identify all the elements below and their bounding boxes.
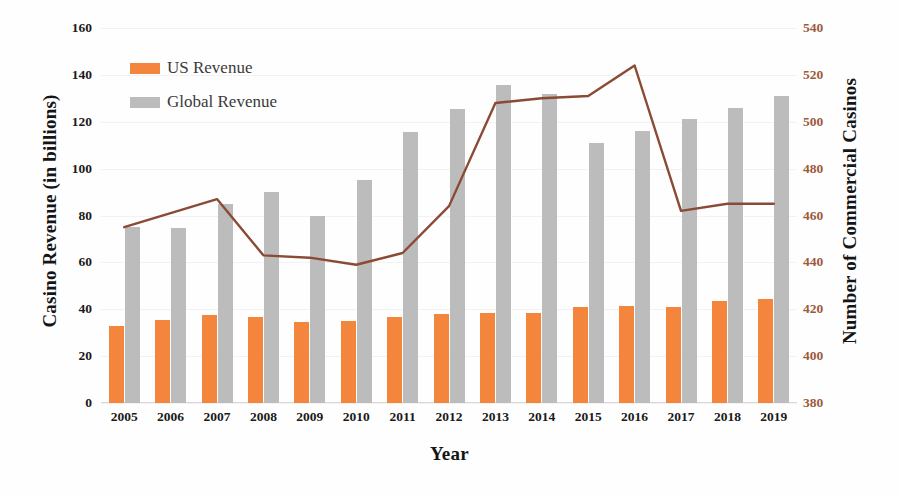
y-axis-left-tick-label: 100 <box>52 162 92 176</box>
bar-us-revenue <box>526 313 541 403</box>
legend-label: US Revenue <box>167 58 252 78</box>
bar-us-revenue <box>155 320 170 403</box>
x-axis-tick-label: 2016 <box>610 409 660 425</box>
bar-global-revenue <box>171 228 186 403</box>
x-axis-tick-label: 2006 <box>146 409 196 425</box>
bar-us-revenue <box>248 317 263 403</box>
bar-global-revenue <box>589 143 604 403</box>
bar-group <box>666 28 697 403</box>
bar-us-revenue <box>202 315 217 403</box>
bar-us-revenue <box>712 301 727 403</box>
bar-us-revenue <box>341 321 356 403</box>
bar-us-revenue <box>109 326 124 403</box>
bar-group <box>619 28 650 403</box>
bar-group <box>387 28 418 403</box>
bar-us-revenue <box>294 322 309 403</box>
x-axis-tick-label: 2018 <box>702 409 752 425</box>
y-axis-right-tick-label: 540 <box>803 21 847 35</box>
x-axis-tick-label: 2009 <box>285 409 335 425</box>
bar-global-revenue <box>450 109 465 403</box>
bar-global-revenue <box>542 94 557 403</box>
bar-global-revenue <box>125 227 140 403</box>
gridline <box>101 403 797 404</box>
y-axis-left-tick-label: 80 <box>52 209 92 223</box>
bar-group <box>434 28 465 403</box>
casino-revenue-chart: Casino Revenue (in billions) Number of C… <box>0 0 899 495</box>
bar-us-revenue <box>387 317 402 403</box>
x-axis-tick-label: 2019 <box>749 409 799 425</box>
x-axis-tick-label: 2013 <box>470 409 520 425</box>
bar-us-revenue <box>573 307 588 403</box>
y-axis-right-tick-label: 440 <box>803 255 847 269</box>
bar-group <box>480 28 511 403</box>
x-axis-tick-label: 2011 <box>378 409 428 425</box>
legend-label: Global Revenue <box>167 92 277 112</box>
bar-group <box>758 28 789 403</box>
x-axis-tick-label: 2005 <box>99 409 149 425</box>
y-axis-left-tick-label: 160 <box>52 21 92 35</box>
legend-swatch-icon <box>130 63 160 74</box>
legend-swatch-icon <box>130 97 160 108</box>
x-axis-title: Year <box>0 443 899 465</box>
x-axis-tick-label: 2015 <box>563 409 613 425</box>
bar-global-revenue <box>357 180 372 403</box>
x-axis-tick-label: 2010 <box>331 409 381 425</box>
y-axis-right-tick-label: 460 <box>803 209 847 223</box>
bar-global-revenue <box>682 119 697 403</box>
bar-group <box>341 28 372 403</box>
y-axis-left-tick-label: 120 <box>52 115 92 129</box>
y-axis-right-tick-label: 480 <box>803 162 847 176</box>
bar-global-revenue <box>218 204 233 403</box>
x-axis-tick-label: 2014 <box>517 409 567 425</box>
bar-group <box>526 28 557 403</box>
bar-group <box>573 28 604 403</box>
y-axis-right-tick-label: 500 <box>803 115 847 129</box>
bar-group <box>294 28 325 403</box>
bar-global-revenue <box>728 108 743 403</box>
y-axis-left-tick-label: 140 <box>52 68 92 82</box>
legend-item[interactable]: US Revenue <box>130 58 277 78</box>
y-axis-right-tick-label: 520 <box>803 68 847 82</box>
bar-global-revenue <box>403 132 418 403</box>
y-axis-left-tick-label: 0 <box>52 396 92 410</box>
bar-us-revenue <box>480 313 495 403</box>
x-axis-tick-label: 2017 <box>656 409 706 425</box>
bar-group <box>712 28 743 403</box>
bar-global-revenue <box>264 192 279 403</box>
y-axis-right-tick-label: 400 <box>803 349 847 363</box>
y-axis-left-ticks: 160140120100806040200 <box>52 0 92 420</box>
x-axis-tick-label: 2007 <box>192 409 242 425</box>
bar-us-revenue <box>619 306 634 403</box>
y-axis-right-ticks: 540520500480460440420400380 <box>803 0 847 420</box>
x-axis-tick-label: 2012 <box>424 409 474 425</box>
bar-us-revenue <box>666 307 681 403</box>
y-axis-left-tick-label: 60 <box>52 255 92 269</box>
y-axis-right-tick-label: 420 <box>803 302 847 316</box>
bar-us-revenue <box>758 299 773 403</box>
y-axis-right-tick-label: 380 <box>803 396 847 410</box>
y-axis-left-tick-label: 40 <box>52 302 92 316</box>
bar-global-revenue <box>310 216 325 404</box>
bar-us-revenue <box>434 314 449 403</box>
bar-global-revenue <box>496 85 511 403</box>
y-axis-left-tick-label: 20 <box>52 349 92 363</box>
bar-global-revenue <box>774 96 789 403</box>
legend-item[interactable]: Global Revenue <box>130 92 277 112</box>
chart-legend: US RevenueGlobal Revenue <box>130 58 277 126</box>
bar-global-revenue <box>635 131 650 403</box>
x-axis-tick-label: 2008 <box>238 409 288 425</box>
